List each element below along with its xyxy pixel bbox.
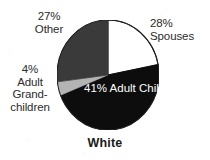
slice-label-adult-grandchildren-value: 4%: [0, 63, 60, 76]
slice-label-other: 27% Other: [18, 10, 80, 35]
slice-label-adult-grandchildren-line1: Adult: [0, 76, 60, 89]
slice-label-other-category: Other: [18, 23, 80, 36]
slice-label-spouses-category: Spouses: [150, 30, 210, 43]
slice-label-adult-grandchildren-line2: Grand-: [0, 88, 60, 101]
slice-label-other-value: 27%: [18, 10, 80, 23]
pie-svg: [57, 20, 159, 130]
slice-label-adult-children-line1: Adult: [110, 82, 136, 94]
slice-label-adult-children-value: 41%: [84, 82, 107, 94]
pie-graphic: [57, 20, 159, 130]
pie-chart-figure: 27% Other 28% Spouses 4% Adult Grand- ch…: [0, 0, 210, 160]
slice-label-adult-children-line2: Children: [139, 82, 182, 94]
slice-label-spouses: 28% Spouses: [150, 17, 210, 42]
slice-label-adult-grandchildren: 4% Adult Grand- children: [0, 63, 60, 113]
chart-title: White: [0, 136, 210, 150]
slice-label-adult-children: 41% Adult Children: [84, 82, 146, 95]
slice-label-adult-grandchildren-line3: children: [0, 101, 60, 114]
slice-label-spouses-value: 28%: [150, 17, 210, 30]
